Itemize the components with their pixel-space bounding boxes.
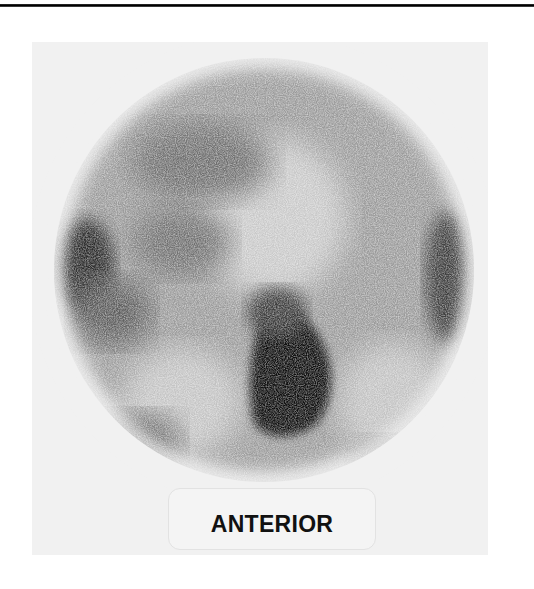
scan-activity-graphic xyxy=(32,42,488,555)
view-label-box: ANTERIOR xyxy=(168,488,376,550)
scan-image xyxy=(32,42,488,555)
top-rule-divider xyxy=(0,4,534,7)
view-label-text: ANTERIOR xyxy=(211,511,334,538)
